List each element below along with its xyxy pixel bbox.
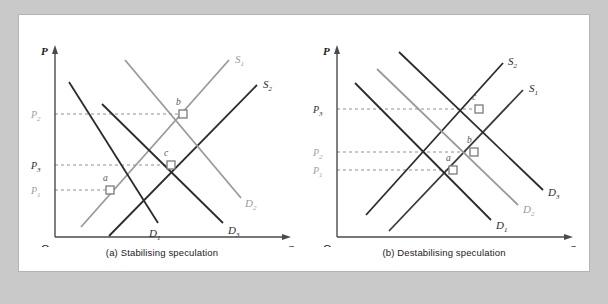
- chart-a: P Q O P2 P3 P1 S1 S2 D1: [19, 15, 305, 247]
- panel-destabilising-speculation: P Q O P3 P2 P1 S2 S1 D1: [301, 15, 587, 273]
- point-b: [470, 148, 478, 156]
- curve-label-s1: S1: [529, 82, 538, 97]
- point-a: [106, 186, 114, 194]
- axis-label-p: P: [323, 45, 330, 57]
- curve-s1: [81, 60, 229, 227]
- point-c: [167, 161, 175, 169]
- chart-b: P Q O P3 P2 P1 S2 S1 D1: [301, 15, 587, 247]
- y-axis-arrow: [334, 45, 340, 54]
- x-axis-arrow: [282, 234, 291, 240]
- curves-a: [69, 60, 257, 236]
- curve-d3: [399, 52, 543, 190]
- curves-b: [355, 52, 543, 231]
- y-axis-arrow: [52, 45, 58, 54]
- price-label-p1: P1: [312, 165, 323, 179]
- curve-label-d1: D1: [495, 219, 507, 234]
- point-label-b: b: [467, 135, 472, 145]
- curve-label-d3: D3: [547, 186, 560, 201]
- point-label-c: c: [164, 148, 169, 158]
- curve-label-d2: D2: [522, 203, 535, 218]
- price-label-p1: P1: [30, 185, 41, 199]
- price-label-p3: P3: [312, 104, 323, 118]
- curve-label-s1: S1: [235, 53, 244, 68]
- price-label-p3: P3: [30, 160, 41, 174]
- figure-container: P Q O P2 P3 P1 S1 S2 D1: [18, 14, 590, 272]
- panel-b-caption: (b) Destabilising speculation: [301, 247, 587, 258]
- curve-s2: [109, 85, 257, 236]
- curve-d2: [125, 60, 241, 198]
- price-label-p2: P2: [30, 109, 41, 123]
- curve-label-d1: D1: [148, 227, 160, 242]
- dashed-guides-b: [337, 109, 479, 170]
- point-label-b: b: [176, 97, 181, 107]
- curve-d2: [377, 69, 518, 205]
- point-c: [475, 105, 483, 113]
- panel-stabilising-speculation: P Q O P2 P3 P1 S1 S2 D1: [19, 15, 305, 273]
- price-label-p2: P2: [312, 147, 323, 161]
- curve-s1: [389, 90, 523, 231]
- labels-a: P Q O P2 P3 P1 S1 S2 D1: [30, 45, 295, 247]
- point-label-a: a: [446, 153, 451, 163]
- axis-label-p: P: [41, 45, 48, 57]
- panel-a-caption: (a) Stabilising speculation: [19, 247, 305, 258]
- x-axis-arrow: [564, 234, 573, 240]
- curve-label-s2: S2: [263, 78, 273, 93]
- point-label-a: a: [103, 173, 108, 183]
- curve-label-d2: D2: [244, 197, 257, 212]
- curve-label-s2: S2: [508, 55, 518, 70]
- point-b: [179, 110, 187, 118]
- curve-d1: [69, 82, 158, 223]
- labels-b: P Q O P3 P2 P1 S2 S1 D1: [312, 45, 577, 247]
- point-a: [449, 166, 457, 174]
